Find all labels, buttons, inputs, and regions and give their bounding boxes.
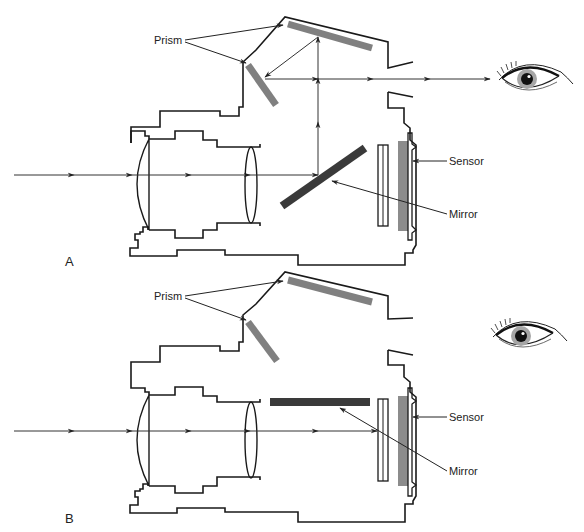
prism-left-surface <box>248 65 276 105</box>
mirror-label: Mirror <box>449 465 478 477</box>
panel-letter-b: B <box>65 511 74 526</box>
panel-a: Prism Sensor Mirror A <box>14 17 573 269</box>
mirror-label: Mirror <box>449 208 478 220</box>
prism-label: Prism <box>154 34 182 46</box>
panel-letter-a: A <box>65 254 74 269</box>
sensor-label: Sensor <box>449 155 484 167</box>
panel-b: Prism Sensor Mirror B <box>14 272 567 526</box>
sensor-frame <box>408 133 416 240</box>
rear-lens <box>245 402 257 478</box>
incoming-light-ray <box>14 37 490 175</box>
prism-label: Prism <box>154 290 182 302</box>
camera-diagram: Prism Sensor Mirror A <box>0 0 584 532</box>
reflex-mirror-down <box>282 148 365 206</box>
rear-lens <box>245 147 257 223</box>
front-lens <box>137 139 149 230</box>
front-lens <box>137 395 149 486</box>
image-sensor <box>398 396 408 486</box>
lens-barrel-outline <box>131 378 260 493</box>
lens-barrel-outline <box>131 131 260 238</box>
sensor-frame <box>408 388 416 496</box>
eye-icon <box>497 61 573 90</box>
camera-body-outline <box>130 17 416 265</box>
image-sensor <box>398 141 408 231</box>
reflex-mirror-up <box>270 398 370 406</box>
sensor-label: Sensor <box>449 411 484 423</box>
camera-body-outline <box>130 272 416 522</box>
prism-left-surface <box>248 322 277 361</box>
eye-icon <box>491 318 567 347</box>
